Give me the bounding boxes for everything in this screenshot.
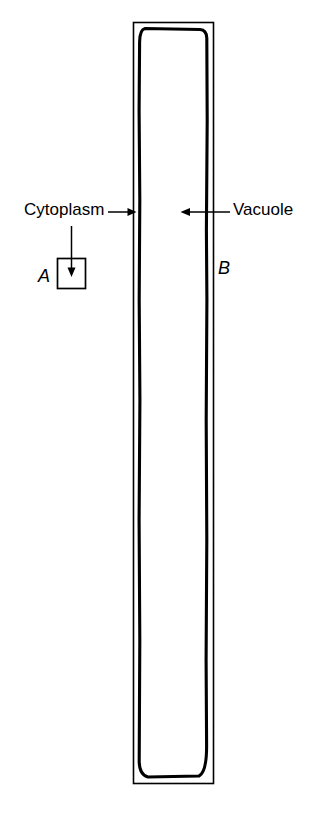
label-region-b: B <box>218 259 230 277</box>
plant-cell-diagram: Cytoplasm Vacuole A B <box>0 0 336 817</box>
box-a-arrowhead-icon <box>68 268 76 278</box>
vacuole-boundary-outline <box>139 29 207 778</box>
cell-wall-outline <box>134 23 214 784</box>
label-vacuole: Vacuole <box>233 201 293 218</box>
cytoplasm-arrowhead-icon <box>128 208 137 216</box>
diagram-canvas <box>0 0 336 817</box>
label-cytoplasm: Cytoplasm <box>24 201 104 218</box>
vacuole-arrowhead-icon <box>181 208 191 216</box>
label-region-a: A <box>38 267 50 285</box>
